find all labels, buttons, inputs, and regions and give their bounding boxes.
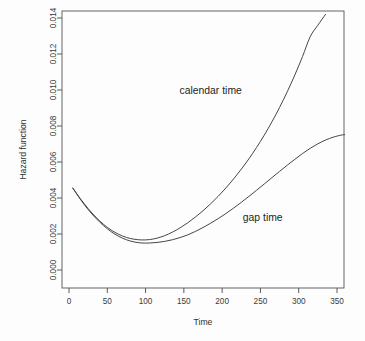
y-tick-label: 0.002: [49, 223, 58, 244]
plot-frame: [62, 11, 344, 288]
x-tick-label: 250: [254, 297, 268, 306]
series-annotation-gap-time: gap time: [243, 212, 283, 223]
y-tick-label: 0.014: [49, 7, 58, 28]
y-tick-label: 0.010: [49, 79, 58, 100]
y-tick-label: 0.012: [49, 43, 58, 64]
y-axis-title: Hazard function: [18, 119, 28, 179]
series-curve-calendar-time: [73, 14, 326, 240]
x-axis-title: Time: [194, 317, 213, 327]
y-tick-label: 0.004: [49, 187, 58, 208]
series-curves: [73, 14, 345, 243]
series-curve-gap-time: [73, 135, 345, 243]
x-tick-label: 300: [292, 297, 306, 306]
x-tick-label: 350: [330, 297, 344, 306]
y-tick-label: 0.000: [49, 259, 58, 280]
series-annotation-calendar-time: calendar time: [179, 85, 242, 96]
x-tick-label: 150: [177, 297, 191, 306]
chart-figure: 0.0000.0020.0040.0060.0080.0100.0120.014…: [0, 0, 365, 341]
x-tick-label: 200: [215, 297, 229, 306]
y-axis-ticks: 0.0000.0020.0040.0060.0080.0100.0120.014: [49, 7, 62, 280]
hazard-function-plot: 0.0000.0020.0040.0060.0080.0100.0120.014…: [0, 0, 365, 341]
x-tick-label: 100: [139, 297, 153, 306]
y-tick-label: 0.006: [49, 151, 58, 172]
y-tick-label: 0.008: [49, 115, 58, 136]
series-annotations: calendar timegap time: [179, 85, 282, 224]
x-tick-label: 50: [103, 297, 113, 306]
x-axis-ticks: 050100150200250300350: [67, 288, 345, 306]
x-tick-label: 0: [67, 297, 72, 306]
